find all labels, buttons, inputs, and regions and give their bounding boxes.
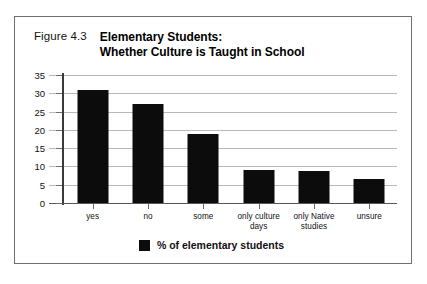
y-axis-tick-label: 35 [21, 70, 45, 81]
figure-title-block: Figure 4.3 Elementary Students: Whether … [34, 30, 379, 59]
category-label-line: studies [286, 222, 341, 232]
x-axis-category-label: no [120, 212, 175, 222]
x-tick-mark [148, 204, 149, 209]
category-label-line: unsure [342, 212, 397, 222]
category-label-line: no [120, 212, 175, 222]
bar-slot [286, 75, 341, 203]
bar-unsure [354, 179, 385, 204]
category-label-line: only culture [231, 212, 286, 222]
title-line-1: Elementary Students: [100, 30, 305, 45]
legend-entry: % of elementary students [139, 239, 284, 251]
x-axis-category-label: only Nativestudies [286, 212, 341, 231]
legend-swatch-icon [139, 240, 150, 251]
category-label-line: days [231, 222, 286, 232]
x-tick-mark [369, 204, 370, 209]
x-axis-category-label: some [176, 212, 231, 222]
title-row: Figure 4.3 Elementary Students: Whether … [34, 30, 379, 59]
bar-some [188, 134, 219, 203]
category-label-line: yes [65, 212, 120, 222]
y-axis-tick-label: 5 [21, 179, 45, 190]
y-axis-tick-label: 0 [21, 198, 45, 209]
bar-slot [65, 75, 120, 203]
x-axis: yesnosomeonly culturedaysonly Nativestud… [49, 203, 397, 243]
chart-legend: % of elementary students [15, 239, 427, 251]
y-axis-tick-label: 20 [21, 124, 45, 135]
x-axis-category-label: yes [65, 212, 120, 222]
x-tick-mark [203, 204, 204, 209]
x-tick-mark [93, 204, 94, 209]
y-axis-tick-label: 30 [21, 88, 45, 99]
bar-only-culture-days [243, 170, 274, 203]
bar-no [132, 104, 163, 203]
bars-group [65, 75, 397, 203]
plot-area: 05101520253035 [49, 75, 397, 203]
y-axis-line [62, 73, 64, 205]
category-label-line: only Native [286, 212, 341, 222]
bar-slot [342, 75, 397, 203]
bar-slot [176, 75, 231, 203]
x-tick-mark [259, 204, 260, 209]
figure-number: Figure 4.3 [34, 30, 87, 42]
figure-frame: Figure 4.3 Elementary Students: Whether … [14, 16, 412, 264]
y-axis-tick-label: 15 [21, 143, 45, 154]
x-axis-line [62, 203, 397, 204]
x-axis-category-label: only culturedays [231, 212, 286, 231]
page-title: Elementary Students: Whether Culture is … [100, 30, 305, 59]
legend-label: % of elementary students [157, 239, 284, 251]
bar-slot [231, 75, 286, 203]
y-axis-tick-label: 10 [21, 161, 45, 172]
y-axis-tick-label: 25 [21, 106, 45, 117]
category-label-line: some [176, 212, 231, 222]
x-tick-mark [314, 204, 315, 209]
bar-only-Native-studies [298, 171, 329, 203]
bar-yes [77, 90, 108, 203]
title-line-2: Whether Culture is Taught in School [100, 45, 305, 60]
bar-slot [120, 75, 175, 203]
x-axis-category-label: unsure [342, 212, 397, 222]
